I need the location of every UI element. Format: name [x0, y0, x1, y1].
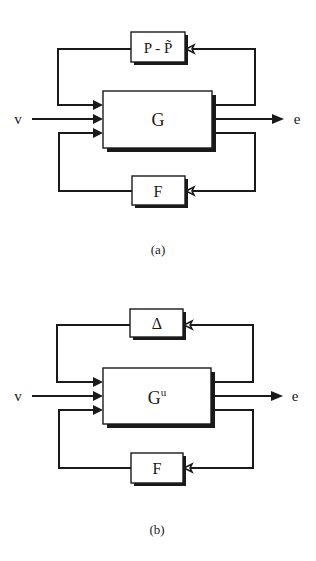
input-v-b: v	[14, 388, 103, 404]
arrowhead-into-gu-top-icon	[93, 377, 103, 387]
input-label-a: v	[14, 111, 22, 127]
arrowhead-into-g-top-icon	[93, 100, 103, 110]
uncertainty-block-a: P - P̃	[131, 32, 188, 65]
output-label-b: e	[292, 388, 299, 404]
main-block-superscript-b: u	[161, 386, 167, 398]
output-e-b: e	[211, 388, 299, 404]
plant-block-a: G	[103, 91, 216, 152]
uncertainty-block-delta: Δ	[130, 309, 186, 340]
block-diagrams: P - P̃ v G e	[0, 0, 316, 561]
arrowhead-into-g-bottom-icon	[93, 128, 103, 138]
arrowhead-input-v-a-icon	[93, 114, 103, 124]
main-block-label-a: G	[152, 110, 165, 130]
main-block-base-b: G	[148, 388, 161, 408]
arrowhead-into-gu-bottom-icon	[93, 405, 103, 415]
diagram-a: P - P̃ v G e	[14, 32, 300, 257]
arrowhead-output-e-a-icon	[272, 114, 284, 124]
output-e-a: e	[212, 111, 301, 127]
input-v-a: v	[14, 111, 103, 127]
input-label-b: v	[14, 388, 22, 404]
feedback-block-f-a: F	[132, 176, 188, 208]
plant-block-gu: Gu	[103, 368, 215, 428]
caption-a: (a)	[151, 242, 165, 257]
diagram-b: Δ v Gu e	[14, 309, 298, 537]
top-block-label-b: Δ	[152, 315, 162, 332]
arrowhead-output-e-b-icon	[271, 391, 283, 401]
output-label-a: e	[294, 111, 301, 127]
bottom-block-label-b: F	[153, 460, 162, 477]
feedback-block-f-b: F	[131, 453, 186, 486]
bottom-block-label-a: F	[154, 183, 163, 200]
arrowhead-input-v-b-icon	[93, 391, 103, 401]
top-block-label-a: P - P̃	[144, 40, 173, 56]
caption-b: (b)	[149, 522, 164, 537]
